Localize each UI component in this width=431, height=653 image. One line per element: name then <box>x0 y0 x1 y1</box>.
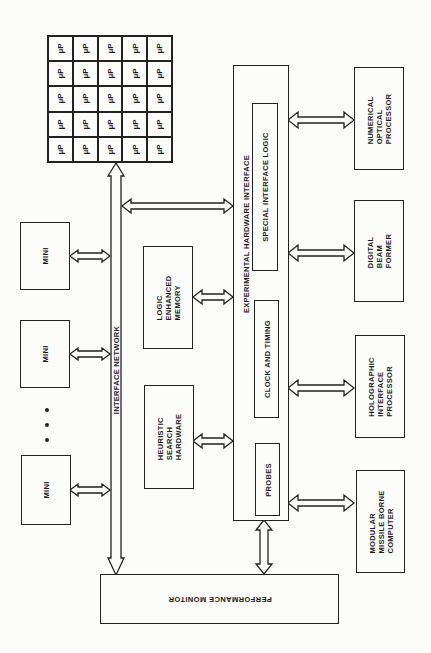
performance-monitor-label: PERFORMANCE MONITOR <box>168 595 272 604</box>
microprocessor-label: μP <box>56 94 65 104</box>
memory-arrow <box>193 290 233 304</box>
microprocessor-cell: μP <box>73 36 98 61</box>
microprocessor-label: μP <box>56 43 65 53</box>
microprocessor-cell: μP <box>73 137 98 162</box>
clock-and-timing-label: CLOCK AND TIMING <box>262 320 271 398</box>
microprocessor-label: μP <box>56 69 65 79</box>
holographic-interface-processor-box: HOLOGRAPHIC INTERFACE PROCESSOR <box>355 335 405 438</box>
microprocessor-label: μP <box>105 94 114 104</box>
ehi-label: EXPERIMENTAL HARDWARE INTERFACE <box>242 155 251 313</box>
heuristic-search-hardware-label: HEURISTIC SEARCH HARDWARE <box>156 414 183 461</box>
digital-beam-former-box: DIGITAL BEAM FORMER <box>354 200 404 302</box>
performance-monitor-box: PERFORMANCE MONITOR <box>100 574 339 624</box>
microprocessor-label: μP <box>56 144 65 154</box>
microprocessor-label: μP <box>130 94 139 104</box>
numerical-optical-processor-box: NUMERICAL OPTICAL PROCESSOR <box>354 67 404 170</box>
modular-arrow <box>288 495 354 511</box>
microprocessor-cell: μP <box>98 36 123 61</box>
probes-label: PROBES <box>263 463 272 496</box>
microprocessor-cell: μP <box>122 86 147 111</box>
microprocessor-label: μP <box>105 119 114 129</box>
microprocessor-cell: μP <box>122 112 147 137</box>
microprocessor-cell: μP <box>48 36 73 61</box>
microprocessor-array: μPμPμPμPμPμPμPμPμPμPμPμPμPμPμPμPμPμPμPμP… <box>47 35 173 163</box>
microprocessor-label: μP <box>155 69 164 79</box>
probes-box: PROBES <box>255 443 280 516</box>
microprocessor-label: μP <box>56 119 65 129</box>
mini3-arrow <box>70 484 110 496</box>
holographic-arrow <box>288 380 354 396</box>
microprocessor-cell: μP <box>98 112 123 137</box>
microprocessor-label: μP <box>105 144 114 154</box>
mini-box: MINI <box>20 320 70 388</box>
microprocessor-cell: μP <box>122 36 147 61</box>
digital-arrow <box>288 245 354 261</box>
microprocessor-label: μP <box>81 69 90 79</box>
heuristic-arrow <box>193 434 233 448</box>
microprocessor-label: μP <box>155 119 164 129</box>
mini2-arrow <box>70 348 110 360</box>
microprocessor-label: μP <box>81 94 90 104</box>
modular-missile-borne-computer-label: MODULAR MISSILE BORNE COMPUTER <box>367 490 394 553</box>
microprocessor-label: μP <box>155 94 164 104</box>
numerical-optical-processor-label: NUMERICAL OPTICAL PROCESSOR <box>366 93 393 144</box>
microprocessor-label: μP <box>81 119 90 129</box>
mini-label: MINI <box>41 247 50 264</box>
logic-enhanced-memory-label: LOGIC ENHANCED MEMORY <box>155 275 182 320</box>
microprocessor-label: μP <box>155 144 164 154</box>
microprocessor-label: μP <box>130 119 139 129</box>
microprocessor-cell: μP <box>98 86 123 111</box>
microprocessor-cell: μP <box>48 61 73 86</box>
microprocessor-cell: μP <box>98 137 123 162</box>
microprocessor-cell: μP <box>73 112 98 137</box>
microprocessor-label: μP <box>130 144 139 154</box>
mini1-arrow <box>70 250 110 262</box>
mini-box: MINI <box>20 222 70 290</box>
mini-label: MINI <box>41 345 50 362</box>
microprocessor-cell: μP <box>48 137 73 162</box>
microprocessor-label: μP <box>81 43 90 53</box>
microprocessor-label: μP <box>81 144 90 154</box>
microprocessor-label: μP <box>130 43 139 53</box>
microprocessor-cell: μP <box>73 86 98 111</box>
mini-box: MINI <box>21 455 71 525</box>
microprocessor-cell: μP <box>122 61 147 86</box>
heuristic-search-hardware-box: HEURISTIC SEARCH HARDWARE <box>144 385 194 489</box>
experimental-hardware-interface-box: EXPERIMENTAL HARDWARE INTERFACE SPECIAL … <box>233 65 289 521</box>
clock-and-timing-box: CLOCK AND TIMING <box>254 300 279 418</box>
microprocessor-cell: μP <box>147 61 172 86</box>
bus-to-ehi-arrow <box>122 199 233 213</box>
special-interface-logic-label: SPECIAL INTERFACE LOGIC <box>261 132 270 242</box>
microprocessor-label: μP <box>105 69 114 79</box>
microprocessor-cell: μP <box>48 112 73 137</box>
ellipsis-dots <box>45 408 51 453</box>
logic-enhanced-memory-box: LOGIC ENHANCED MEMORY <box>143 246 193 349</box>
digital-beam-former-label: DIGITAL BEAM FORMER <box>366 234 393 268</box>
microprocessor-cell: μP <box>147 86 172 111</box>
microprocessor-label: μP <box>130 69 139 79</box>
microprocessor-label: μP <box>155 43 164 53</box>
microprocessor-cell: μP <box>73 61 98 86</box>
microprocessor-cell: μP <box>122 137 147 162</box>
interface-network-label: INTERFACE NETWORK <box>112 326 121 414</box>
modular-missile-borne-computer-box: MODULAR MISSILE BORNE COMPUTER <box>356 470 405 573</box>
numerical-arrow <box>288 112 354 128</box>
microprocessor-cell: μP <box>98 61 123 86</box>
microprocessor-cell: μP <box>147 112 172 137</box>
holographic-interface-processor-label: HOLOGRAPHIC INTERFACE PROCESSOR <box>367 357 394 417</box>
microprocessor-cell: μP <box>147 137 172 162</box>
microprocessor-cell: μP <box>147 36 172 61</box>
microprocessor-label: μP <box>105 43 114 53</box>
mini-label: MINI <box>42 481 51 498</box>
special-interface-logic-box: SPECIAL INTERFACE LOGIC <box>252 103 278 271</box>
microprocessor-cell: μP <box>48 86 73 111</box>
ehi-to-monitor-arrow <box>256 520 272 574</box>
